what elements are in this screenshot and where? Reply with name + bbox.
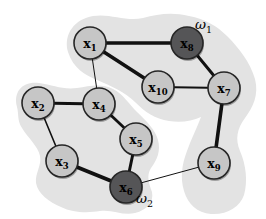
graph-canvas: x1x2x3x4x5x6x7x8x9x10ω1ω2 — [0, 0, 266, 219]
figure-graph-clusters: x1x2x3x4x5x6x7x8x9x10ω1ω2 — [0, 0, 266, 219]
cluster-label-omega1: ω1 — [195, 16, 212, 35]
